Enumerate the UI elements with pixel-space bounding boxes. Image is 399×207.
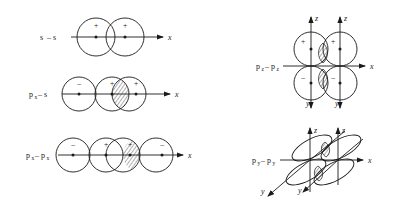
panel-label-pz-pz-part1: p	[256, 62, 260, 71]
axis-x-label-px-s: x	[174, 90, 179, 99]
lobe-sign: +	[331, 37, 335, 46]
nucleus-dot	[124, 36, 127, 39]
panel-label-px-px-part1: p	[26, 151, 30, 160]
lobe-sign: +	[301, 37, 305, 46]
panel-label-py-py-dash: –	[260, 156, 266, 165]
panel-label-py-py-sub2: y	[273, 160, 276, 166]
panel-label-px-s-dash: –	[37, 90, 43, 99]
lobe-sign: –	[76, 79, 81, 88]
panel-label-s-s-part2: s	[53, 33, 56, 42]
panel-label-px-px-dash: –	[34, 151, 40, 160]
panel-px-s: p x – s x – + +	[29, 77, 179, 111]
nucleus-dot	[339, 82, 342, 85]
axis-y-label-right-py: y	[297, 186, 302, 195]
axis-x-label-s-s: x	[167, 33, 172, 42]
axis-y-label-left-py: y	[260, 187, 265, 196]
nucleus-dot	[78, 93, 81, 96]
panel-label-s-s-part1: s	[40, 33, 43, 42]
lobe-sign: –	[70, 140, 75, 149]
lobe-sign: +	[134, 79, 138, 88]
nucleus-dot	[105, 154, 108, 157]
nucleus-dot	[72, 154, 75, 157]
nucleus-dot	[310, 48, 313, 51]
axis-z-label-left-py: z	[313, 126, 318, 135]
lobe-sign: +	[110, 79, 114, 88]
nucleus-dot	[129, 154, 132, 157]
axis-x-label-py-py: x	[367, 156, 372, 165]
nucleus-dot	[161, 154, 164, 157]
panel-px-px: p x – p x x – + + –	[26, 138, 192, 172]
panel-label-py-py-part1: p	[252, 156, 256, 165]
lobe-sign: +	[104, 140, 108, 149]
panel-label-px-s-part1: p	[29, 90, 33, 99]
lobe-sign: +	[123, 21, 127, 30]
lobe-sign: –	[159, 140, 164, 149]
panel-py-py: p y – p y x z z y y	[252, 126, 372, 196]
panel-label-pz-pz-dash: –	[264, 62, 270, 71]
overlap-hatch-region-py	[314, 142, 329, 181]
figure-canvas: s – s x + + p x – s x – + + p x –	[0, 0, 399, 207]
panel-label-s-s-dash: –	[46, 33, 52, 42]
panel-label-px-px-sub2: x	[47, 155, 50, 161]
panel-pz-pz: p z – p z x z z y y + + – –	[256, 14, 374, 108]
panel-label-py-py-part2: p	[267, 156, 271, 165]
panel-label-px-px-part2: p	[41, 151, 45, 160]
lobe-sign: –	[300, 73, 305, 82]
axis-x-label-pz-pz: x	[369, 62, 374, 71]
axis-z-label-left: z	[314, 14, 319, 23]
panel-label-pz-pz-sub2: z	[277, 66, 280, 72]
panel-label-pz-pz-part2: p	[271, 62, 275, 71]
nucleus-dot	[310, 82, 313, 85]
lobe-sign: +	[128, 140, 132, 149]
nucleus-dot	[135, 93, 138, 96]
nucleus-dot	[111, 93, 114, 96]
panel-label-px-s-part2: s	[44, 90, 47, 99]
nucleus-dot	[339, 48, 342, 51]
axis-x-label-px-px: x	[187, 151, 192, 160]
axis-z-label-right: z	[343, 14, 348, 23]
lobe-sign: +	[94, 21, 98, 30]
panel-s-s: s – s x + +	[40, 18, 172, 56]
orbital-overlap-figure: s – s x + + p x – s x – + + p x –	[0, 0, 399, 207]
nucleus-dot	[95, 36, 98, 39]
axis-y-line-right-upper	[338, 139, 363, 160]
lobe-sign: –	[330, 73, 335, 82]
